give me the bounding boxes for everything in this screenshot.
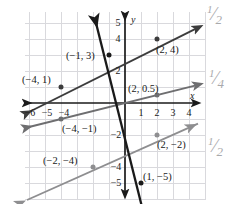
label-2-half: (2, 0.5) bbox=[128, 83, 159, 95]
coordinate-plane: −6 −5 −4 1 2 3 4 5 4 2 −2 −4 −5 y x (−1,… bbox=[0, 0, 241, 204]
label-neg4-1: (−4, 1) bbox=[22, 74, 51, 86]
xtick-1: 1 bbox=[139, 107, 144, 118]
xtick-neg5: −5 bbox=[42, 107, 53, 118]
ytick-5: 5 bbox=[116, 17, 121, 28]
ytick-neg5: −5 bbox=[111, 177, 122, 188]
xtick-4: 4 bbox=[187, 107, 192, 118]
graph-figure: −6 −5 −4 1 2 3 4 5 4 2 −2 −4 −5 y x (−1,… bbox=[0, 0, 241, 204]
ytick-4: 4 bbox=[116, 33, 121, 44]
ytick-neg4: −4 bbox=[111, 161, 122, 172]
series-upper-line bbox=[27, 28, 198, 113]
annotation-slope-quarter: 1⁄4 bbox=[209, 68, 224, 90]
ytick-2: 2 bbox=[116, 65, 121, 76]
label-neg1-3: (−1, 3) bbox=[66, 50, 95, 62]
y-axis-label: y bbox=[130, 14, 136, 25]
xtick-neg6: −6 bbox=[25, 107, 36, 118]
xtick-neg4: −4 bbox=[59, 107, 70, 118]
annotation-3-denominator: 2 bbox=[217, 145, 224, 158]
ytick-neg2: −2 bbox=[111, 129, 122, 140]
annotation-1-denominator: 2 bbox=[216, 13, 223, 26]
label-1-neg5: (1, −5) bbox=[143, 171, 172, 183]
label-neg2-neg4: (−2, −4) bbox=[43, 155, 78, 167]
point-2-4 bbox=[155, 37, 160, 42]
xtick-2: 2 bbox=[155, 107, 160, 118]
label-2-neg2: (2, −2) bbox=[157, 139, 186, 151]
annotation-2-denominator: 4 bbox=[218, 77, 225, 90]
xtick-3: 3 bbox=[171, 107, 176, 118]
label-neg4-neg1: (−4, −1) bbox=[62, 123, 97, 135]
annotation-slope-half-top: 1⁄2 bbox=[207, 4, 222, 26]
point-neg2-neg4 bbox=[91, 165, 96, 170]
label-2-4: (2, 4) bbox=[156, 44, 179, 56]
annotation-slope-half-bottom: 1⁄2 bbox=[208, 136, 223, 158]
point-2-neg2 bbox=[155, 133, 160, 138]
x-axis-label: x bbox=[189, 90, 195, 101]
point-neg4-1 bbox=[59, 85, 64, 90]
point-neg1-3 bbox=[107, 53, 112, 58]
